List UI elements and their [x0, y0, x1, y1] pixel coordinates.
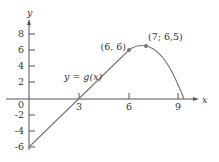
- y-tick-label: 8: [18, 28, 24, 39]
- function-graph: y x 8 6 4 2 0 -2 -4 -6 3 6 9 (6, 6) (7; …: [0, 0, 219, 162]
- y-axis-arrow-icon: [27, 19, 31, 25]
- y-tick-label: -4: [15, 125, 24, 136]
- point-7-6.5: [144, 44, 148, 48]
- x-axis-label: x: [202, 94, 208, 105]
- y-tick-label: 6: [18, 44, 24, 55]
- function-curve: [29, 46, 184, 148]
- y-tick-label: 2: [18, 76, 24, 87]
- y-axis-label: y: [26, 7, 33, 18]
- x-tick-label: 9: [175, 101, 181, 112]
- x-axis-arrow-icon: [193, 97, 199, 101]
- point-6-6: [127, 48, 131, 52]
- y-ticks: [29, 34, 35, 147]
- point-label-7-6.5: (7; 6,5): [148, 31, 183, 42]
- y-tick-label: -6: [15, 141, 24, 152]
- y-tick-label: 4: [18, 60, 24, 71]
- x-tick-label: 3: [76, 101, 82, 112]
- x-tick-label: 6: [126, 101, 132, 112]
- point-label-6-6: (6, 6): [100, 41, 126, 52]
- curve-label: y = g(x): [63, 71, 103, 82]
- x-ticks: [79, 93, 178, 99]
- y-tick-label: -2: [15, 109, 24, 120]
